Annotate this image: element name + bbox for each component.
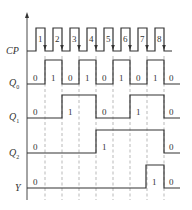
q0-state-value: 1	[119, 73, 124, 83]
clock-pulse-number: 4	[89, 34, 94, 44]
signal-waveforms: CP12345678Q0010101010Q101010Q2010Y010	[6, 28, 180, 193]
q1-label-subscript: 1	[16, 118, 19, 124]
q0-state-value: 0	[33, 73, 38, 83]
clock-pulse-number: 5	[106, 34, 111, 44]
y-state-value: 0	[169, 177, 174, 187]
q0-state-value: 0	[102, 73, 107, 83]
q0-label: Q0	[9, 77, 19, 90]
timing-diagram: CP12345678Q0010101010Q101010Q2010Y010	[0, 0, 192, 210]
cp-label: CP	[6, 45, 19, 56]
falling-edge-arrow-icon	[162, 45, 166, 50]
q2-state-value: 0	[33, 142, 38, 152]
q1-state-value: 0	[33, 107, 38, 117]
q2-label: Q2	[9, 147, 19, 160]
q0-state-value: 0	[169, 73, 174, 83]
clock-pulse-number: 1	[38, 34, 43, 44]
falling-edge-arrow-icon	[77, 45, 81, 50]
falling-edge-arrow-icon	[60, 45, 64, 50]
q0-state-value: 0	[68, 73, 73, 83]
y-waveform	[27, 165, 180, 188]
y-state-value: 0	[33, 177, 38, 187]
signal-cp: CP12345678	[6, 28, 172, 56]
q0-state-value: 1	[153, 73, 158, 83]
q0-label-subscript: 0	[16, 84, 19, 90]
falling-edge-arrow-icon	[145, 45, 149, 50]
falling-edge-arrow-icon	[43, 45, 47, 50]
q0-state-value: 1	[85, 73, 90, 83]
q1-state-value: 0	[102, 107, 107, 117]
clock-pulse-number: 3	[72, 34, 77, 44]
clock-pulse-number: 7	[140, 34, 145, 44]
clock-pulse-number: 2	[55, 34, 60, 44]
cp-waveform	[27, 28, 172, 51]
q2-state-value: 0	[169, 142, 174, 152]
signal-q0: Q0010101010	[9, 60, 180, 90]
time-axis	[25, 12, 29, 200]
clock-pulse-number: 8	[157, 34, 162, 44]
clock-pulse-number: 6	[123, 34, 128, 44]
axis-arrow-icon	[25, 12, 29, 18]
signal-q1: Q101010	[9, 95, 180, 124]
y-label: Y	[15, 182, 22, 193]
q2-label-subscript: 2	[16, 154, 19, 160]
falling-edge-arrow-icon	[94, 45, 98, 50]
y-state-value: 1	[152, 177, 157, 187]
q1-state-value: 0	[169, 107, 174, 117]
q0-state-value: 1	[51, 73, 56, 83]
q2-state-value: 1	[102, 142, 107, 152]
q1-label: Q1	[9, 111, 19, 124]
signal-q2: Q2010	[9, 130, 180, 160]
q1-state-value: 1	[68, 107, 73, 117]
signal-y: Y010	[15, 165, 180, 193]
falling-edge-arrow-icon	[128, 45, 132, 50]
q0-state-value: 0	[136, 73, 141, 83]
q1-state-value: 1	[136, 107, 141, 117]
falling-edge-arrow-icon	[111, 45, 115, 50]
